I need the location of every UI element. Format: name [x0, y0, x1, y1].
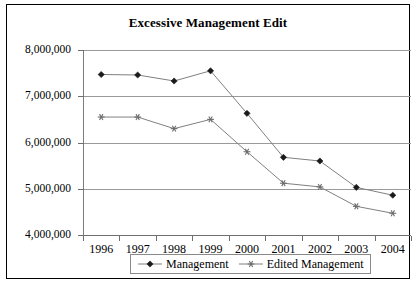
legend-label: Edited Management [267, 258, 364, 270]
diamond-marker-icon [98, 71, 104, 77]
x-axis-tick [411, 236, 412, 241]
star-marker-icon [389, 210, 396, 216]
diamond-marker-icon [390, 192, 396, 198]
star-marker-icon [353, 203, 360, 209]
chart-container: Excessive Management Edit 8,000,0007,000… [6, 4, 410, 279]
legend-marker-swatch [238, 258, 264, 270]
series-line [101, 71, 393, 195]
chart-legend: ManagementEdited Management [130, 254, 371, 274]
star-marker-icon [171, 126, 178, 132]
diamond-marker-icon [135, 72, 141, 78]
legend-label: Management [166, 258, 229, 270]
plot-data-layer [7, 5, 411, 280]
diamond-marker-icon [147, 261, 153, 267]
star-marker-icon [247, 261, 254, 267]
legend-entry[interactable]: Edited Management [238, 258, 364, 270]
legend-marker-swatch [137, 258, 163, 270]
series-line [101, 117, 393, 213]
star-marker-icon [316, 184, 323, 190]
star-marker-icon [134, 114, 141, 120]
star-marker-icon [98, 114, 105, 120]
legend-entry[interactable]: Management [137, 258, 229, 270]
diamond-marker-icon [171, 78, 177, 84]
